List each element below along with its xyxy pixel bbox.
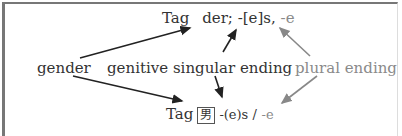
top-genitive: -[e]s, (238, 9, 276, 27)
gender-label: gender (37, 61, 91, 76)
gender-to-bottom-arrow (73, 76, 182, 101)
genitive-to-bottom-arrow (215, 76, 222, 97)
bottom-genitive: -(e)s / (219, 107, 256, 122)
gender-to-top-arrow (80, 28, 190, 58)
top-headword: Tag (162, 9, 189, 27)
bottom-dictionary-entry: Tag男-(e)s / -e (166, 107, 274, 124)
plural-to-bottom-arrow (282, 76, 317, 103)
top-dictionary-entry: Tag der; -[e]s, -e (162, 11, 295, 26)
genitive-to-top-arrow (223, 30, 236, 52)
bottom-plural: -e (262, 107, 274, 122)
top-gender: der; (202, 9, 233, 27)
genitive-label: genitive singular ending (107, 61, 292, 76)
top-plural: -e (281, 9, 295, 27)
masculine-gender-symbol: 男 (197, 107, 215, 124)
bottom-headword: Tag (166, 105, 193, 123)
plural-label: plural ending (295, 61, 397, 76)
plural-to-top-arrow (280, 28, 310, 56)
